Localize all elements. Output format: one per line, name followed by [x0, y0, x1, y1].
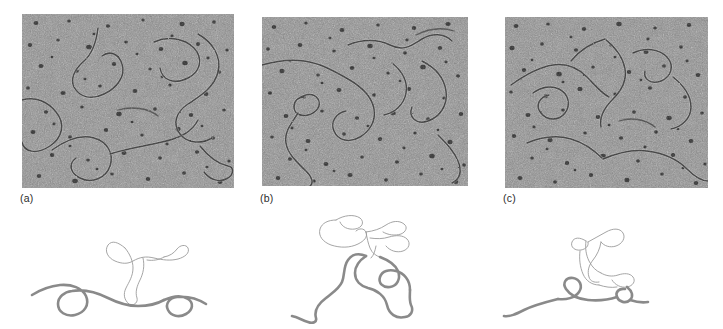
tracing-diagram-c — [500, 215, 700, 320]
panel-label-a: (a) — [20, 193, 33, 204]
micrograph-panel-b — [262, 17, 468, 186]
duplex-strand-a — [32, 285, 206, 316]
tracing-diagram-b — [270, 212, 460, 324]
micrograph-panel-a — [22, 14, 234, 188]
micrograph-panel-c — [505, 17, 708, 188]
loop-outline-b — [320, 216, 410, 258]
panel-label-c: (c) — [503, 193, 516, 204]
figure-root: (a) — [0, 0, 723, 329]
loop-outline-c — [572, 229, 635, 287]
panel-label-b: (b) — [260, 193, 273, 204]
duplex-strand-b — [292, 254, 412, 322]
duplex-strand-c — [504, 278, 648, 316]
tracing-diagram-a — [30, 220, 230, 325]
